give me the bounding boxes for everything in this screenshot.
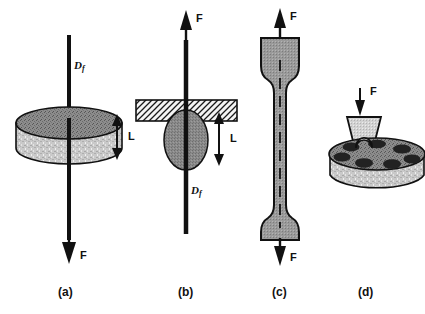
panel-label-c: (c)	[272, 285, 287, 299]
force-arrow-head-d	[355, 100, 365, 116]
panel-a-group	[16, 35, 122, 264]
force-arrow-head-a	[62, 242, 76, 264]
force-label-a: F	[80, 249, 87, 261]
disk-hole	[393, 144, 411, 153]
panel-label-a: (a)	[58, 285, 73, 299]
panel-d-group	[329, 88, 425, 188]
force-label-c-bottom: F	[290, 251, 297, 263]
fiber-diameter-label-b: Df	[191, 184, 202, 196]
disk-hole	[334, 152, 351, 161]
dimension-label-a: L	[128, 130, 135, 142]
dim-arrow-down-b	[214, 154, 224, 166]
force-label-b: F	[196, 12, 203, 24]
force-label-c-top: F	[290, 10, 297, 22]
force-label-d: F	[370, 85, 377, 97]
diagram-svg	[0, 0, 425, 314]
panel-b-group	[136, 10, 237, 234]
force-arrow-head-b	[180, 10, 192, 30]
dimension-label-b: L	[230, 132, 237, 144]
fiber-diameter-label-a: Df	[74, 59, 85, 71]
force-arrow-head-c-top	[274, 8, 286, 28]
panel-c-group	[261, 8, 299, 266]
disk-hole	[404, 154, 421, 163]
disk-hole	[355, 158, 373, 168]
panel-label-d: (d)	[358, 285, 373, 299]
panel-label-b: (b)	[178, 285, 193, 299]
force-arrow-head-c-bottom	[274, 246, 286, 266]
disk-hole	[383, 159, 401, 169]
figure-canvas: Df F L (a) F L Df (b) F F (c) F (d)	[0, 0, 425, 314]
